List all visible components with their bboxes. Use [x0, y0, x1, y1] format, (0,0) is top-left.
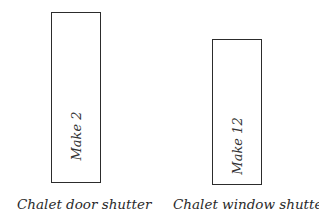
window-shutter-caption: Chalet window shutter: [173, 196, 319, 212]
window-shutter-shape: Make 12: [212, 39, 262, 185]
door-shutter-caption: Chalet door shutter: [17, 196, 151, 212]
door-shutter-shape: Make 2: [51, 12, 101, 183]
door-shutter-quantity: Make 2: [69, 111, 84, 160]
window-shutter-quantity: Make 12: [230, 117, 245, 174]
